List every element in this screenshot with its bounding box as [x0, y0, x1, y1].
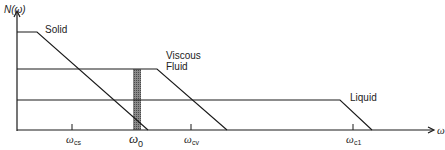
svg-text:cv: cv	[192, 139, 200, 146]
svg-text:ω: ω	[129, 131, 138, 146]
omega-cv-tick-label: ω cv	[184, 133, 200, 146]
svg-text:0: 0	[138, 139, 143, 149]
curves	[17, 32, 372, 130]
svg-text:ω: ω	[184, 133, 192, 145]
liquid-label: Liquid	[350, 92, 377, 103]
ticks	[72, 124, 353, 130]
x-axis-label: ω	[437, 124, 445, 136]
svg-text:ω: ω	[66, 133, 74, 145]
liquid-curve	[17, 100, 372, 130]
solid-curve	[17, 32, 148, 130]
y-axis-label: N(ω)	[4, 4, 26, 15]
viscous-fluid-label-line2: Fluid	[166, 61, 188, 72]
omega-c1-tick-label: ω c1	[346, 133, 362, 146]
svg-text:ω: ω	[346, 133, 354, 145]
density-of-states-diagram: N(ω) ω Solid Viscous Fluid Liquid ω cs ω…	[0, 0, 445, 150]
svg-text:cs: cs	[74, 139, 82, 146]
axes	[14, 11, 434, 133]
solid-label: Solid	[45, 24, 67, 35]
omega-0-tick-label: ω 0	[129, 131, 143, 149]
viscous-fluid-label-line1: Viscous	[166, 50, 201, 61]
omega-cs-tick-label: ω cs	[66, 133, 82, 146]
svg-text:c1: c1	[354, 139, 362, 146]
